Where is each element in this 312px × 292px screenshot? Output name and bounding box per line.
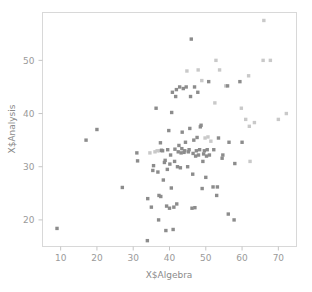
data-point-marker	[227, 212, 230, 215]
data-point-marker	[174, 95, 177, 98]
data-point-marker	[253, 121, 256, 124]
data-point-marker	[206, 148, 209, 151]
data-point-marker	[171, 91, 174, 94]
data-point-marker	[215, 194, 218, 197]
data-point-marker	[171, 228, 174, 231]
data-point-marker	[208, 153, 211, 156]
data-point-marker	[179, 166, 182, 169]
data-point-marker	[221, 153, 224, 156]
data-point-marker	[146, 197, 149, 200]
data-point-marker	[247, 74, 250, 77]
data-point-marker	[186, 165, 189, 168]
data-point-marker	[240, 141, 243, 144]
data-point-marker	[213, 101, 216, 104]
data-point-marker	[95, 128, 98, 131]
data-point-marker	[165, 204, 168, 207]
data-point-marker	[201, 160, 204, 163]
plot-canvas: 10203040506070 20304050 X$Algebra X$Anal…	[0, 0, 312, 292]
data-point-marker	[164, 229, 167, 232]
data-point-marker	[226, 84, 229, 87]
x-axis-title: X$Algebra	[146, 270, 193, 280]
data-point-marker	[161, 149, 164, 152]
data-point-marker	[168, 162, 171, 165]
data-point-marker	[248, 160, 251, 163]
data-point-marker	[202, 152, 205, 155]
data-point-marker	[170, 186, 173, 189]
data-point-marker	[269, 59, 272, 62]
data-point-marker	[206, 135, 209, 138]
x-tick-label: 30	[127, 253, 139, 263]
data-point-marker	[203, 149, 206, 152]
data-point-marker	[200, 187, 203, 190]
data-point-marker	[168, 207, 171, 210]
data-point-marker	[212, 148, 215, 151]
figure-background	[0, 0, 312, 292]
data-point-marker	[136, 159, 139, 162]
data-point-marker	[261, 59, 264, 62]
x-tick-label: 20	[91, 253, 103, 263]
data-point-marker	[152, 164, 155, 167]
data-point-marker	[175, 88, 178, 91]
data-point-marker	[200, 79, 203, 82]
data-point-marker	[121, 186, 124, 189]
data-point-marker	[244, 118, 247, 121]
data-point-marker	[159, 141, 162, 144]
data-point-marker	[162, 178, 165, 181]
data-point-marker	[214, 59, 217, 62]
data-point-marker	[216, 185, 219, 188]
data-point-marker	[169, 153, 172, 156]
data-point-marker	[191, 172, 194, 175]
data-point-marker	[166, 148, 169, 151]
data-point-marker	[240, 107, 243, 110]
data-point-marker	[146, 239, 149, 242]
data-point-marker	[218, 68, 221, 71]
data-point-marker	[233, 162, 236, 165]
data-point-marker	[204, 176, 207, 179]
data-point-marker	[190, 207, 193, 210]
data-point-marker	[55, 227, 58, 230]
data-point-marker	[194, 154, 197, 157]
data-point-marker	[189, 95, 192, 98]
data-point-marker	[159, 195, 162, 198]
data-point-marker	[185, 69, 188, 72]
data-point-marker	[190, 37, 193, 40]
data-point-marker	[196, 68, 199, 71]
data-point-marker	[177, 150, 180, 153]
data-point-marker	[220, 157, 223, 160]
data-point-marker	[184, 141, 187, 144]
data-point-marker	[173, 147, 176, 150]
data-point-marker	[248, 125, 251, 128]
x-tick-label: 40	[164, 253, 176, 263]
data-point-marker	[156, 170, 159, 173]
data-point-marker	[196, 91, 199, 94]
data-point-marker	[173, 160, 176, 163]
data-point-marker	[176, 165, 179, 168]
x-tick-label: 60	[236, 253, 248, 263]
y-tick-label: 40	[23, 109, 35, 119]
data-point-marker	[227, 141, 230, 144]
data-point-marker	[199, 124, 202, 127]
data-point-marker	[163, 159, 166, 162]
data-point-marker	[170, 111, 173, 114]
data-point-marker	[207, 80, 210, 83]
data-point-marker	[167, 129, 170, 132]
data-point-marker	[148, 151, 151, 154]
data-point-marker	[177, 144, 180, 147]
data-point-marker	[151, 169, 154, 172]
data-point-marker	[178, 85, 181, 88]
data-point-marker	[195, 136, 198, 139]
data-point-marker	[285, 112, 288, 115]
scatter-plot-figure: 10203040506070 20304050 X$Algebra X$Anal…	[0, 0, 312, 292]
data-point-marker	[181, 130, 184, 133]
y-tick-label: 20	[23, 215, 35, 225]
data-point-marker	[184, 85, 187, 88]
x-tick-label: 50	[200, 253, 212, 263]
data-point-marker	[209, 140, 212, 143]
y-tick-label: 50	[23, 56, 35, 66]
data-point-marker	[193, 206, 196, 209]
data-point-marker	[157, 218, 160, 221]
x-tick-label: 70	[273, 253, 285, 263]
data-point-marker	[232, 218, 235, 221]
data-point-marker	[198, 148, 201, 151]
data-point-marker	[277, 118, 280, 121]
